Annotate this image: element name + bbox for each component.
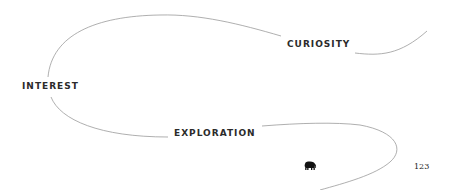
label-curiosity: CURIOSITY: [287, 40, 350, 49]
elephant-icon: [303, 161, 317, 171]
label-exploration: EXPLORATION: [174, 129, 256, 138]
flow-curve: [0, 0, 451, 190]
label-interest: INTEREST: [22, 82, 79, 91]
page-number: 123: [414, 163, 429, 171]
